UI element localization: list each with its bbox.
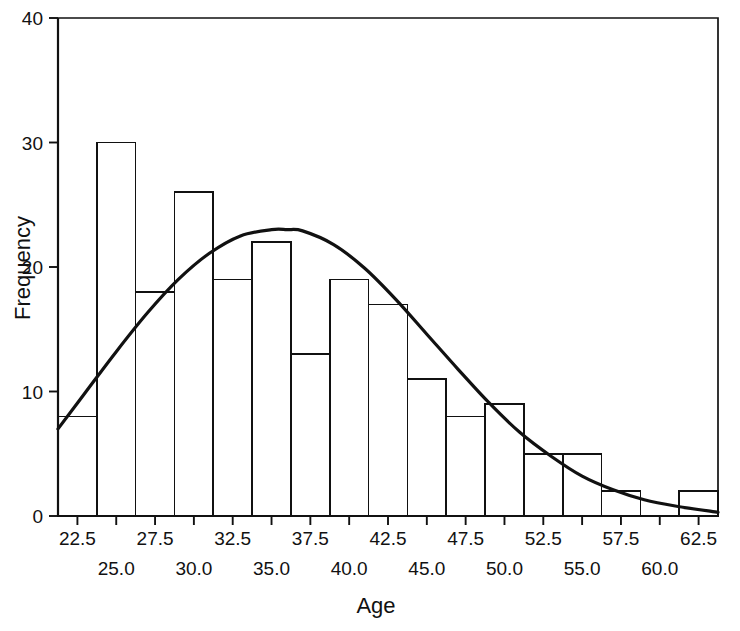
y-tick-label: 40 [22, 8, 43, 29]
x-tick-label: 42.5 [370, 528, 407, 549]
histogram-screenshot: 22.527.532.537.542.547.552.557.562.5 25.… [0, 0, 740, 631]
x-tick-label: 60.0 [641, 558, 678, 579]
x-tick-label: 47.5 [447, 528, 484, 549]
x-tick-label: 27.5 [137, 528, 174, 549]
histogram-chart: 22.527.532.537.542.547.552.557.562.5 25.… [0, 0, 740, 631]
y-tick-label: 10 [22, 382, 43, 403]
x-tick-label: 37.5 [292, 528, 329, 549]
y-tick-label: 30 [22, 133, 43, 154]
x-tick-label: 55.0 [564, 558, 601, 579]
x-tick-label: 35.0 [253, 558, 290, 579]
x-tick-label: 32.5 [214, 528, 251, 549]
y-axis-title: Frequency [10, 216, 35, 320]
x-tick-label: 30.0 [175, 558, 212, 579]
x-tick-label: 52.5 [525, 528, 562, 549]
x-axis-tick-labels-row-1: 22.527.532.537.542.547.552.557.562.5 [59, 528, 717, 549]
x-tick-label: 22.5 [59, 528, 96, 549]
x-tick-label: 50.0 [486, 558, 523, 579]
x-tick-label: 40.0 [331, 558, 368, 579]
x-axis-title: Age [356, 593, 395, 618]
x-tick-label: 45.0 [408, 558, 445, 579]
y-tick-label: 0 [32, 506, 43, 527]
x-tick-label: 25.0 [98, 558, 135, 579]
x-tick-label: 62.5 [680, 528, 717, 549]
x-tick-label: 57.5 [602, 528, 639, 549]
